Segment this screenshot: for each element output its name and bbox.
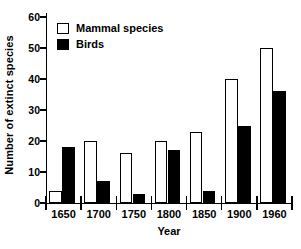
legend-swatch-filled-square-icon [57, 39, 69, 50]
x-tick-1900 [221, 196, 222, 210]
y-tick-50 [40, 47, 47, 48]
x-tick-1750 [116, 196, 117, 210]
bar-mammal-species-1960 [260, 48, 273, 203]
legend-label-birds: Birds [76, 39, 104, 50]
legend-swatch-open-square-icon [57, 23, 69, 34]
bar-birds-1850 [203, 191, 216, 203]
x-axis-line [40, 203, 292, 204]
bar-mammal-species-1850 [190, 132, 203, 203]
x-tick-1800 [151, 196, 152, 210]
y-tick-30 [40, 109, 47, 110]
y-tick-label-30: 30 [16, 105, 40, 116]
x-tick-1850 [186, 196, 187, 210]
bar-mammal-species-1900 [225, 79, 238, 203]
bar-mammal-species-1750 [120, 153, 133, 203]
bar-birds-1750 [133, 194, 146, 203]
extinct-species-bar-chart: Number of extinct species 0102030405060 … [0, 0, 301, 249]
bar-birds-1800 [168, 150, 181, 203]
y-axis-label-text: Number of extinct species [3, 35, 15, 174]
legend-item-birds: Birds [57, 37, 163, 52]
x-tick-end [291, 196, 292, 210]
x-tick-1650 [45, 196, 46, 210]
legend-label-mammal-species: Mammal species [76, 23, 163, 34]
figure-caption [8, 241, 298, 249]
bar-birds-1900 [238, 126, 251, 204]
y-tick-label-0: 0 [16, 198, 40, 209]
x-tick-1960 [256, 196, 257, 210]
bar-mammal-species-1700 [84, 141, 97, 203]
y-tick-10 [40, 171, 47, 172]
bar-birds-1700 [97, 181, 110, 203]
bar-birds-1960 [273, 91, 286, 203]
y-tick-label-60: 60 [16, 12, 40, 23]
bar-mammal-species-1650 [49, 191, 62, 203]
y-tick-label-40: 40 [16, 74, 40, 85]
chart-legend: Mammal species Birds [57, 21, 163, 53]
y-tick-40 [40, 78, 47, 79]
y-tick-label-10: 10 [16, 167, 40, 178]
x-tick-1700 [80, 196, 81, 210]
y-tick-label-50: 50 [16, 43, 40, 54]
y-tick-label-20: 20 [16, 136, 40, 147]
x-axis-label: Year [46, 225, 292, 237]
y-tick-20 [40, 140, 47, 141]
legend-item-mammal-species: Mammal species [57, 21, 163, 36]
x-tick-label-1960: 1960 [252, 209, 296, 220]
bar-mammal-species-1800 [155, 141, 168, 203]
y-tick-60 [40, 16, 47, 17]
bar-birds-1650 [62, 147, 75, 203]
